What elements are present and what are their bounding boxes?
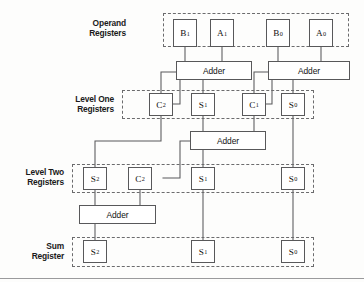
register-a1-sub: 1	[224, 30, 227, 37]
register-level-one-c1[interactable]: C1	[242, 93, 266, 116]
register-sum-s1-base: S	[199, 247, 204, 257]
adder-top-right[interactable]: Adder	[268, 61, 350, 80]
wire-l1c2-to-l2s2	[95, 116, 161, 167]
register-a1[interactable]: A1	[210, 19, 234, 47]
register-sum-s2[interactable]: S2	[83, 240, 107, 263]
row-label-operand-registers: Operand Registers	[56, 18, 126, 38]
register-level-two-c2[interactable]: C2	[128, 167, 152, 190]
adder-pipeline-diagram: Operand Registers Level One Registers Le…	[0, 0, 364, 282]
register-level-two-c2-base: C	[135, 174, 141, 184]
register-sum-s1[interactable]: S1	[191, 240, 215, 263]
register-b0-base: B	[273, 28, 279, 38]
row-label-level-one-registers: Level One Registers	[36, 94, 114, 114]
register-level-one-c2[interactable]: C2	[149, 93, 173, 116]
register-level-two-s1[interactable]: S1	[191, 167, 215, 190]
register-level-two-s2[interactable]: S2	[83, 167, 107, 190]
row-label-level-two-registers: Level Two Registers	[0, 167, 64, 187]
register-a0-sub: 0	[323, 30, 326, 37]
register-level-two-s2-sub: 2	[96, 175, 99, 182]
register-b1-base: B	[180, 28, 186, 38]
row-label-sum-register: Sum Register	[0, 241, 64, 261]
register-level-one-s1-base: S	[199, 100, 204, 110]
register-level-two-c2-sub: 2	[142, 175, 145, 182]
register-b0-sub: 0	[280, 30, 283, 37]
register-level-two-s0-base: S	[289, 174, 294, 184]
register-a1-base: A	[217, 28, 224, 38]
register-level-two-s0-sub: 0	[294, 175, 297, 182]
register-b1-sub: 1	[187, 30, 190, 37]
register-level-one-c1-sub: 1	[256, 101, 259, 108]
wire-adderleft-carry-to-c2	[161, 72, 176, 93]
register-b1[interactable]: B1	[173, 19, 197, 47]
register-sum-s1-sub: 1	[204, 248, 207, 255]
wire-addermid-carry-to-l2c2	[163, 141, 190, 178]
register-level-one-c2-sub: 2	[163, 101, 166, 108]
page-bottom-rule	[0, 278, 364, 279]
register-b0[interactable]: B0	[266, 19, 290, 47]
register-sum-s0-sub: 0	[294, 248, 297, 255]
register-sum-s0[interactable]: S0	[281, 240, 305, 263]
adder-top-left[interactable]: Adder	[176, 61, 252, 80]
adder-mid[interactable]: Adder	[190, 131, 266, 150]
register-level-two-s2-base: S	[91, 174, 96, 184]
register-level-one-s0[interactable]: S0	[281, 93, 305, 116]
register-sum-s2-base: S	[91, 247, 96, 257]
register-level-one-s1-sub: 1	[204, 101, 207, 108]
register-level-one-c2-base: C	[156, 100, 162, 110]
register-level-one-s1[interactable]: S1	[191, 93, 215, 116]
register-sum-s0-base: S	[289, 247, 294, 257]
register-level-one-s0-sub: 0	[294, 101, 297, 108]
adder-bottom[interactable]: Adder	[79, 205, 156, 224]
register-level-one-s0-base: S	[289, 100, 294, 110]
register-level-two-s1-sub: 1	[204, 175, 207, 182]
register-sum-s2-sub: 2	[96, 248, 99, 255]
register-level-two-s1-base: S	[199, 174, 204, 184]
register-level-one-c1-base: C	[249, 100, 255, 110]
wire-adderright-carry-to-c1	[254, 72, 268, 93]
register-level-two-s0[interactable]: S0	[281, 167, 305, 190]
register-a0[interactable]: A0	[309, 19, 333, 47]
register-a0-base: A	[316, 28, 323, 38]
